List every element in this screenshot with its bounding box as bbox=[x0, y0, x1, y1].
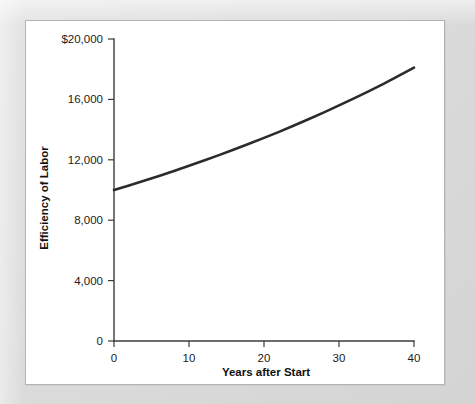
figure-root: 04,0008,00012,00016,000$20,000 010203040… bbox=[0, 0, 475, 404]
y-tick-label-1: 4,000 bbox=[74, 275, 103, 287]
x-axis-tick-labels: 010203040 bbox=[111, 352, 421, 364]
x-tick-label-3: 30 bbox=[333, 352, 346, 364]
y-tick-label-2: 8,000 bbox=[74, 214, 103, 226]
y-tick-label-5: $20,000 bbox=[61, 33, 103, 45]
x-tick-label-1: 10 bbox=[183, 352, 196, 364]
y-axis-title: Efficiency of Labor bbox=[38, 146, 50, 250]
line-chart: 04,0008,00012,00016,000$20,000 010203040… bbox=[26, 21, 446, 386]
x-tick-label-0: 0 bbox=[111, 352, 117, 364]
chart-plate: 04,0008,00012,00016,000$20,000 010203040… bbox=[25, 20, 445, 385]
x-axis-title: Years after Start bbox=[222, 366, 310, 378]
y-tick-label-3: 12,000 bbox=[68, 154, 103, 166]
x-axis-ticks bbox=[114, 341, 414, 347]
y-tick-label-4: 16,000 bbox=[68, 93, 103, 105]
series-efficiency-of-labor bbox=[114, 68, 414, 190]
x-tick-label-4: 40 bbox=[408, 352, 421, 364]
y-tick-label-0: 0 bbox=[97, 335, 103, 347]
y-axis-tick-labels: 04,0008,00012,00016,000$20,000 bbox=[61, 33, 103, 347]
x-tick-label-2: 20 bbox=[258, 352, 271, 364]
